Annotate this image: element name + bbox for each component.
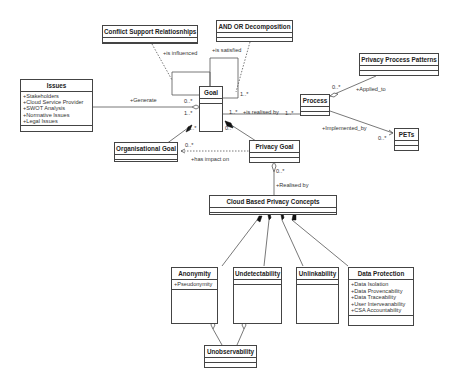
unobs-anon-link [213, 329, 222, 345]
unobs-undet-link [237, 329, 244, 345]
class-conflict-support[interactable]: Conflict Support Relatiosnhips [102, 25, 198, 44]
class-unlinkability[interactable]: Unlinkability [296, 267, 339, 324]
label-is-realised-by: +is realised by [243, 109, 279, 115]
class-title: Privacy Process Patterns [360, 54, 438, 66]
class-issues[interactable]: Issues +Stakeholders +Cloud Service Prov… [20, 79, 93, 132]
anon-link [222, 220, 257, 266]
class-goal[interactable]: Goal [199, 86, 223, 132]
class-title: Conflict Support Relatiosnhips [103, 26, 197, 38]
label-applied-to: +Applied_to [356, 86, 386, 92]
class-undetectability[interactable]: Undetectability [233, 267, 282, 324]
attribute: +CSA Accountability [351, 307, 411, 314]
undet-link [264, 220, 269, 266]
class-title: Process [301, 95, 329, 107]
attribute: +Data Provencability [351, 288, 411, 295]
anon-composition-icon [257, 216, 262, 222]
label-generate: +Generate [130, 97, 157, 103]
class-privacy-goal[interactable]: Privacy Goal [249, 140, 300, 163]
attribute: +Data Isolation [351, 281, 411, 288]
attribute: +Pseudonymity [174, 281, 215, 288]
label-implemented-by: +Implemented_by [322, 125, 367, 131]
mult-goal-org: 1..* [188, 125, 196, 131]
class-title: PETs [395, 129, 418, 141]
mult-goal-realised: 1..* [229, 109, 237, 115]
mult-pets-impl: 0..* [378, 135, 386, 141]
class-title: Unobservability [205, 346, 256, 358]
mult-goal-priv: 0..* [225, 125, 233, 131]
mult-process-applied: 0..* [332, 84, 340, 90]
class-title: Issues [21, 80, 92, 92]
class-title: AND OR Decomposition [217, 21, 292, 33]
label-is-satisfied: +is satisfied [212, 47, 241, 53]
applied-diamond-icon [330, 93, 338, 97]
label-has-impact-on: +has impact on [191, 156, 229, 162]
mult-org-impact: 0..* [185, 142, 193, 148]
class-attributes: +Stakeholders +Cloud Service Provider +S… [21, 92, 92, 126]
class-anonymity[interactable]: Anonymity +Pseudonymity [171, 267, 218, 324]
attribute: +Legal Issues [23, 118, 90, 124]
class-attributes: +Pseudonymity [172, 280, 217, 290]
class-attributes: +Data Isolation +Data Provencability +Da… [349, 280, 413, 316]
class-data-protection[interactable]: Data Protection +Data Isolation +Data Pr… [348, 267, 414, 326]
class-unobservability[interactable]: Unobservability [204, 345, 257, 368]
class-cloud-based-privacy-concepts[interactable]: Cloud Based Privacy Concepts [209, 195, 337, 215]
class-title: Unlinkability [297, 268, 338, 280]
class-title: Data Protection [349, 268, 413, 280]
class-pets[interactable]: PETs [394, 128, 419, 151]
class-title: Organisational Goal [115, 143, 177, 155]
class-title: Cloud Based Privacy Concepts [210, 196, 336, 208]
attribute: +Data Traceability [351, 294, 411, 301]
class-title: Goal [200, 87, 222, 99]
label-is-influenced: +is influenced [163, 50, 197, 56]
class-title: Undetectability [234, 268, 281, 280]
class-title: Anonymity [172, 268, 217, 280]
class-organisational-goal[interactable]: Organisational Goal [114, 142, 178, 162]
class-and-or-decomposition[interactable]: AND OR Decomposition [216, 20, 293, 42]
mult-goal-satisfied: 1..* [240, 91, 248, 97]
mult-priv-realised: 0..* [276, 168, 284, 174]
class-title: Privacy Goal [250, 141, 299, 153]
class-privacy-process-patterns[interactable]: Privacy Process Patterns [359, 53, 439, 76]
dp-link [292, 220, 348, 266]
mult-goal-issue-left: 1..* [184, 110, 192, 116]
attribute: +User Interveanability [351, 301, 411, 308]
mult-goal-generate: 0..* [184, 98, 192, 104]
label-realised-by: +Realised by [276, 182, 309, 188]
mult-process-realised: 1..* [285, 110, 293, 116]
class-process[interactable]: Process [300, 94, 330, 116]
